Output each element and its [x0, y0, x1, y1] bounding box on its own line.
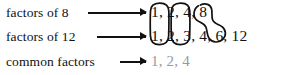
numbers-factors-of-12: 1, 2, 3, 4, 6, 12	[151, 28, 247, 44]
row-label-common-factors: common factors	[6, 55, 95, 69]
numbers-factors-of-8: 1, 2, 4, 8	[151, 4, 207, 20]
arrow-icon-row-1	[88, 8, 146, 18]
arrow-shaft	[88, 12, 146, 14]
arrow-icon-row-2	[97, 32, 146, 42]
arrow-shaft	[97, 36, 146, 38]
row-label-factors-of-8: factors of 8	[6, 6, 69, 20]
row-label-factors-of-12: factors of 12	[6, 30, 76, 44]
arrow-head	[140, 8, 147, 16]
arrow-head	[140, 32, 147, 40]
numbers-common-factors: 1, 2, 4	[151, 54, 190, 69]
common-factors-diagram: factors of 8 1, 2, 4, 8 factors of 12 1,…	[0, 0, 285, 75]
arrow-icon-row-3	[120, 57, 146, 67]
arrow-head	[140, 57, 147, 65]
